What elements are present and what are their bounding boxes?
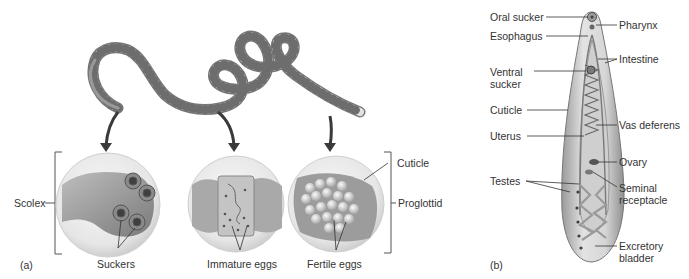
panel-label-a: (a) <box>20 259 33 271</box>
panel-label-b: (b) <box>490 259 503 271</box>
proglottid-bracket <box>384 152 396 253</box>
label-seminal-receptacle-1: Seminal <box>619 182 657 194</box>
label-scolex: Scolex <box>14 197 46 209</box>
tapeworm-strobila <box>91 36 360 112</box>
label-cuticle-a: Cuticle <box>397 157 429 169</box>
label-ventral-sucker-1: Ventral <box>490 66 523 78</box>
label-excretory-bladder-2: bladder <box>619 252 654 264</box>
label-ventral-sucker-2: sucker <box>490 78 521 90</box>
label-immature-eggs: Immature eggs <box>207 258 277 270</box>
arrows <box>106 112 332 146</box>
label-proglottid: Proglottid <box>398 197 442 209</box>
figure-graphics <box>0 0 689 279</box>
label-pharynx: Pharynx <box>619 19 658 31</box>
label-oral-sucker: Oral sucker <box>490 11 544 23</box>
label-intestine: Intestine <box>619 53 659 65</box>
label-seminal-receptacle-2: receptacle <box>619 194 667 206</box>
label-vas-deferens: Vas deferens <box>619 119 680 131</box>
label-uterus: Uterus <box>490 130 521 142</box>
label-suckers: Suckers <box>97 258 135 270</box>
label-cuticle-b: Cuticle <box>490 104 522 116</box>
label-fertile-eggs: Fertile eggs <box>307 258 362 270</box>
label-testes: Testes <box>490 175 520 187</box>
label-ovary: Ovary <box>619 156 647 168</box>
label-esophagus: Esophagus <box>490 30 543 42</box>
label-excretory-bladder-1: Excretory <box>619 240 663 252</box>
